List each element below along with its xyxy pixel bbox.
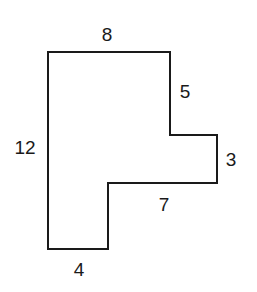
l-shaped-polygon	[48, 52, 217, 249]
diagram-canvas: 8 5 3 7 4 12	[0, 0, 257, 292]
label-left-side: 12	[14, 138, 35, 157]
label-top-side: 8	[102, 25, 113, 44]
label-upper-right-side: 5	[180, 82, 191, 101]
label-right-step-side: 3	[226, 150, 237, 169]
label-inner-bottom-side: 7	[159, 195, 170, 214]
label-bottom-side: 4	[74, 260, 85, 279]
polygon-figure	[0, 0, 257, 292]
